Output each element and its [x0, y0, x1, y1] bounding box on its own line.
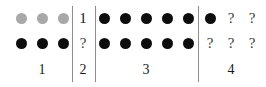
dot-black	[99, 13, 110, 24]
dot-glyph	[37, 38, 48, 49]
dot-glyph	[120, 13, 131, 24]
dot-glyph	[99, 38, 110, 49]
top-row: 1	[72, 13, 94, 24]
unknown-marker: ?	[226, 38, 237, 49]
dot-black	[141, 13, 152, 24]
top-row: ??	[202, 13, 260, 24]
number-glyph: 1	[79, 11, 87, 26]
bottom-row	[14, 38, 70, 49]
dot-glyph	[141, 38, 152, 49]
dot-black	[58, 38, 69, 49]
dot-glyph	[16, 13, 27, 24]
dot-black	[162, 13, 173, 24]
group-label-4: 4	[202, 63, 260, 77]
group-1: 1	[14, 0, 70, 87]
dot-black	[183, 13, 194, 24]
unknown-marker: ?	[226, 13, 237, 24]
dot-glyph	[183, 13, 194, 24]
top-row	[14, 13, 70, 24]
dot-glyph	[141, 13, 152, 24]
dot-gray	[58, 13, 69, 24]
dot-gray	[37, 13, 48, 24]
dot-black	[120, 13, 131, 24]
unknown-marker: ?	[247, 38, 258, 49]
dot-glyph	[16, 38, 27, 49]
dot-matrix-figure: 11?23?????4	[0, 0, 266, 87]
dot-black	[120, 38, 131, 49]
dot-black	[205, 13, 216, 24]
group-4: ?????4	[202, 0, 260, 87]
dot-black	[141, 38, 152, 49]
bottom-row	[100, 38, 192, 49]
dot-black	[16, 38, 27, 49]
dot-glyph	[205, 13, 216, 24]
group-2: 1?2	[72, 0, 94, 87]
unknown-marker: ?	[247, 13, 258, 24]
question-mark-glyph: ?	[207, 36, 214, 51]
separator-rule-3	[198, 6, 199, 82]
question-mark-glyph: ?	[249, 11, 256, 26]
unknown-marker: ?	[205, 38, 216, 49]
bottom-row: ???	[202, 38, 260, 49]
dot-black	[162, 38, 173, 49]
group-label-1: 1	[14, 63, 70, 77]
dot-black	[99, 38, 110, 49]
unknown-marker: ?	[78, 38, 89, 49]
question-mark-glyph: ?	[249, 36, 256, 51]
dot-glyph	[183, 38, 194, 49]
group-label-3: 3	[100, 63, 192, 77]
question-mark-glyph: ?	[228, 36, 235, 51]
top-row	[100, 13, 192, 24]
value-text: 1	[78, 13, 89, 24]
group-label-2: 2	[72, 63, 94, 77]
dot-glyph	[37, 13, 48, 24]
dot-black	[37, 38, 48, 49]
dot-glyph	[162, 13, 173, 24]
question-mark-glyph: ?	[228, 11, 235, 26]
dot-glyph	[99, 13, 110, 24]
dot-glyph	[58, 13, 69, 24]
bottom-row: ?	[72, 38, 94, 49]
question-mark-glyph: ?	[80, 36, 87, 51]
dot-black	[183, 38, 194, 49]
dot-glyph	[58, 38, 69, 49]
separator-rule-2	[95, 6, 96, 82]
dot-glyph	[162, 38, 173, 49]
dot-glyph	[120, 38, 131, 49]
dot-gray	[16, 13, 27, 24]
group-3: 3	[100, 0, 192, 87]
